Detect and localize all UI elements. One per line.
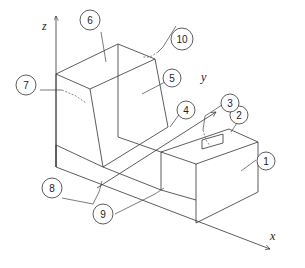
x-axis-label: x [269, 229, 276, 243]
z-axis-label: z [41, 19, 47, 33]
callout-3: 3 [221, 94, 239, 112]
leaders [40, 26, 256, 214]
callout-1: 1 [257, 152, 275, 170]
x-axis [56, 167, 270, 249]
svg-text:4: 4 [183, 105, 189, 116]
svg-text:7: 7 [23, 80, 29, 91]
svg-text:6: 6 [87, 15, 93, 26]
svg-text:3: 3 [227, 98, 233, 109]
y-axis [97, 112, 216, 188]
svg-text:8: 8 [49, 183, 55, 194]
svg-text:5: 5 [169, 73, 175, 84]
callout-9: 9 [93, 204, 113, 224]
y-axis-label: y [200, 70, 207, 84]
step-region [56, 127, 258, 223]
callout-8: 8 [42, 178, 62, 198]
callout-4: 4 [177, 101, 195, 119]
part-diagram: z y x [0, 0, 305, 268]
callout-10: 10 [171, 28, 193, 50]
svg-text:1: 1 [263, 156, 269, 167]
svg-text:2: 2 [236, 110, 242, 121]
callout-7: 7 [16, 75, 36, 95]
callout-6: 6 [80, 10, 100, 30]
svg-text:9: 9 [100, 209, 106, 220]
svg-text:10: 10 [176, 34, 188, 45]
callout-5: 5 [163, 69, 181, 87]
